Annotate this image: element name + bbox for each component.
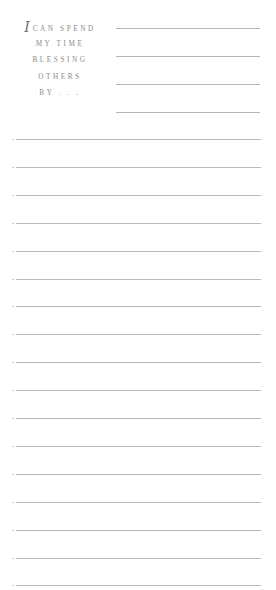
line-start-dot: [12, 390, 14, 391]
line-start-dot: [12, 223, 14, 224]
line-start-dot: [12, 362, 14, 363]
writing-line: [116, 28, 260, 29]
line-start-dot: [12, 585, 14, 586]
line-start-dot: [12, 195, 14, 196]
writing-line: [16, 167, 261, 168]
writing-line: [16, 251, 261, 252]
writing-line: [16, 195, 261, 196]
line-start-dot: [12, 306, 14, 307]
writing-line: [16, 390, 261, 391]
line-start-dot: [12, 502, 14, 503]
line-start-dot: [12, 139, 14, 140]
writing-line: [16, 334, 261, 335]
writing-line: [16, 418, 261, 419]
writing-line: [16, 306, 261, 307]
line-start-dot: [12, 334, 14, 335]
writing-line: [16, 446, 261, 447]
prompt-line-5: BY . . .: [10, 85, 110, 102]
writing-line: [16, 585, 261, 586]
writing-line: [116, 84, 260, 85]
writing-line: [16, 530, 261, 531]
writing-line: [116, 56, 260, 57]
line-start-dot: [12, 279, 14, 280]
writing-line: [116, 112, 260, 113]
writing-line: [16, 362, 261, 363]
line-start-dot: [12, 251, 14, 252]
line-start-dot: [12, 558, 14, 559]
prompt-heading: ICAN SPEND MY TIME BLESSING OTHERS BY . …: [10, 19, 110, 102]
writing-line: [16, 474, 261, 475]
line-start-dot: [12, 167, 14, 168]
writing-line: [16, 139, 261, 140]
decorative-initial: I: [24, 19, 30, 35]
writing-line: [16, 279, 261, 280]
line-start-dot: [12, 446, 14, 447]
writing-line: [16, 223, 261, 224]
prompt-line-3: BLESSING: [10, 52, 110, 69]
line-start-dot: [12, 530, 14, 531]
prompt-text: CAN SPEND: [33, 25, 96, 33]
prompt-line-4: OTHERS: [10, 69, 110, 86]
line-start-dot: [12, 474, 14, 475]
line-start-dot: [12, 418, 14, 419]
prompt-line-2: MY TIME: [10, 36, 110, 53]
writing-line: [16, 502, 261, 503]
prompt-line-1: ICAN SPEND: [10, 19, 110, 36]
writing-line: [16, 558, 261, 559]
